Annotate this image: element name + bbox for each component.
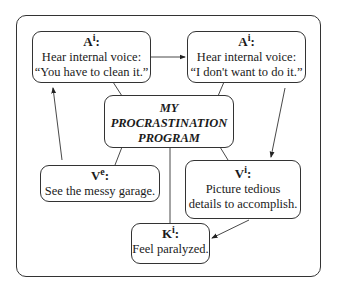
- node-text-line: Picture tedious: [186, 182, 300, 197]
- node-code: Ve:: [41, 168, 159, 184]
- node-auditory-internal-1: Ai: Hear internal voice: “You have to cl…: [32, 31, 151, 83]
- node-kinesthetic-internal: Ki: Feel paralyzed.: [131, 223, 210, 264]
- node-visual-internal: Vi: Picture tedious details to accomplis…: [185, 160, 301, 219]
- node-text-line: details to accomplish.: [186, 197, 300, 212]
- arrow-v1-to-a1: [53, 88, 62, 160]
- node-code: Ai:: [33, 34, 150, 50]
- node-text-line: Feel paralyzed.: [132, 242, 209, 257]
- node-text-line: See the messy garage.: [41, 184, 159, 199]
- node-text-line: “I don't want to do it.”: [188, 65, 305, 80]
- title-line-2: PROCRASTINATION: [105, 116, 233, 131]
- node-auditory-internal-2: Ai: Hear internal voice: “I don't want t…: [187, 31, 306, 83]
- node-code: Ai:: [188, 34, 305, 50]
- node-text-line: Hear internal voice:: [188, 50, 305, 65]
- node-text-line: “You have to clean it.”: [33, 65, 150, 80]
- arrow-a2-to-v2: [271, 88, 285, 157]
- arrow-v2-to-k1: [212, 220, 249, 238]
- title-line-3: PROGRAM: [105, 131, 233, 146]
- node-code: Ki:: [132, 226, 209, 242]
- node-code: Vi:: [186, 166, 300, 182]
- title-line-1: MY: [105, 101, 233, 116]
- center-title-box: MY PROCRASTINATION PROGRAM: [104, 95, 234, 148]
- node-visual-external: Ve: See the messy garage.: [40, 165, 160, 202]
- node-text-line: Hear internal voice:: [33, 50, 150, 65]
